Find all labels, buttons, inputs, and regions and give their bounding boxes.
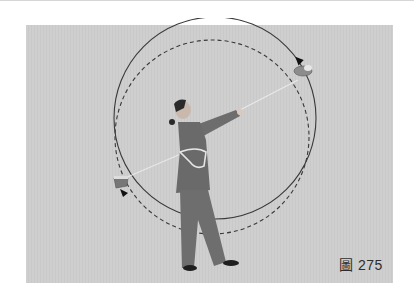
arrow-lower-left-icon: [120, 189, 128, 197]
martial-artist-figure: [169, 100, 243, 272]
rope-dart-lower-left: [114, 176, 128, 188]
dashed-trajectory: [115, 40, 309, 234]
arrow-upper-right-icon: [293, 57, 304, 67]
rope-upper: [240, 80, 298, 110]
figure-caption: 圖 275: [339, 254, 383, 274]
rope-dart-upper-right: [294, 65, 312, 76]
